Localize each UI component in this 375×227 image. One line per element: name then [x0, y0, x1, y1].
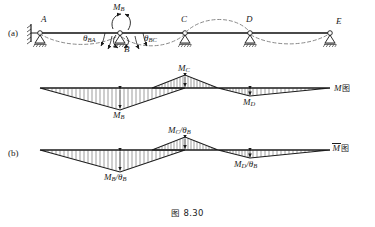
ordinate-label-md-theta: MD/θB: [234, 159, 257, 169]
ordinate-label-md: MD: [243, 97, 255, 107]
mbar-diagram-lobe-ab: [40, 150, 185, 172]
figure-caption: 图 8.30: [0, 206, 375, 218]
node-label-a: A: [41, 14, 47, 24]
m-diagram-title: M图: [334, 82, 350, 93]
node-label-e: E: [336, 16, 342, 26]
rotation-label-theta-ba: θBA: [83, 33, 95, 43]
m-diagram-lobe-c: [152, 75, 218, 88]
ordinate-label-mb-theta: MB/θB: [104, 172, 126, 182]
applied-moment-label: MB: [113, 2, 124, 12]
mbar-diagram-title: M图: [332, 142, 349, 153]
m-diagram-lobe-ab: [40, 88, 185, 110]
figure-vector-canvas: [0, 0, 375, 227]
ordinate-label-mc-theta: MC/θB: [168, 125, 191, 135]
mbar-diagram-lobe-d: [218, 150, 330, 158]
figure-8-30: (a) (b): [0, 0, 375, 227]
node-label-c: C: [181, 14, 187, 24]
ordinate-label-mc: MC: [178, 63, 190, 73]
ordinate-label-mb: MB: [113, 110, 124, 120]
node-label-b: B: [124, 44, 130, 54]
support-a: [27, 24, 47, 47]
m-diagram-lobe-d: [218, 88, 330, 96]
mbar-diagram-lobe-c: [152, 137, 218, 150]
node-label-d: D: [246, 14, 253, 24]
rotation-label-theta-bc: θBC: [144, 33, 157, 43]
